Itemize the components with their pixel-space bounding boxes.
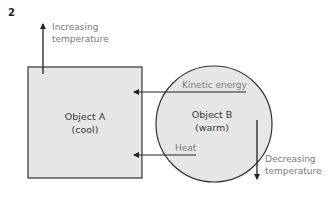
object-b-name: Object B (192, 109, 232, 120)
object-a-name: Object A (65, 111, 106, 122)
object-b-state: (warm) (195, 122, 229, 133)
object-a-state: (cool) (72, 124, 99, 135)
kinetic-energy-label: Kinetic energy (182, 80, 248, 90)
heat-transfer-diagram: 2 Object A (cool) Object B (warm) Increa… (0, 0, 333, 204)
heat-label: Heat (175, 143, 197, 153)
increasing-label-2: temperature (52, 34, 109, 44)
decreasing-label-1: Decreasing (265, 154, 316, 164)
figure-number: 2 (8, 7, 15, 18)
increasing-label-1: Increasing (52, 22, 98, 32)
object-a-box (28, 67, 142, 178)
decreasing-label-2: temperature (265, 166, 322, 176)
